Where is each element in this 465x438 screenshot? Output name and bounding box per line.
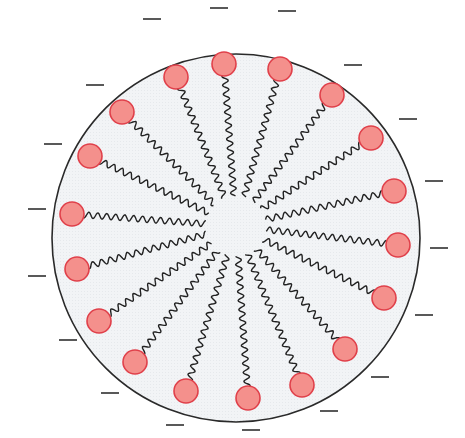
head-6	[386, 233, 410, 257]
head-13	[87, 309, 111, 333]
head-7	[372, 286, 396, 310]
head-4	[359, 126, 383, 150]
head-16	[78, 144, 102, 168]
head-12	[123, 350, 147, 374]
head-15	[60, 202, 84, 226]
head-2	[268, 57, 292, 81]
micelle-diagram	[0, 0, 465, 438]
micelle-boundary	[52, 54, 420, 422]
head-1	[212, 52, 236, 76]
head-17	[110, 100, 134, 124]
head-0	[164, 65, 188, 89]
head-11	[174, 379, 198, 403]
head-10	[236, 386, 260, 410]
head-5	[382, 179, 406, 203]
head-14	[65, 257, 89, 281]
head-3	[320, 83, 344, 107]
head-8	[333, 337, 357, 361]
head-9	[290, 373, 314, 397]
